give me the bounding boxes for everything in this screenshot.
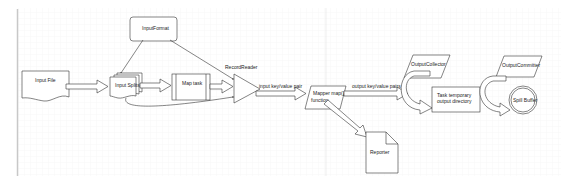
node-map-task[interactable]: Map task (172, 74, 210, 100)
node-output-committer[interactable]: OutputCommitter (496, 56, 542, 77)
output-collector-label: OutputCollector (411, 61, 446, 67)
mapper-label-line1: Mapper map() (313, 90, 345, 96)
record-reader-label: RecordReader (225, 64, 258, 70)
spill-buffer-label: Spill Buffer (513, 97, 537, 103)
reporter-label: Reporter (370, 149, 390, 155)
input-file-label: Input File (35, 77, 56, 83)
task-temp-dir-line2: output directory (437, 98, 472, 104)
input-splits-label: Input Splits (115, 82, 140, 88)
diagram-canvas: Input File InputFormat Input Splits (0, 0, 561, 187)
output-committer-label: OutputCommitter (502, 62, 540, 68)
node-spill-buffer[interactable]: Spill Buffer (509, 86, 537, 114)
output-kv-label: output key/value pairs (352, 83, 401, 89)
node-input-format[interactable]: InputFormat (130, 17, 177, 41)
node-input-file[interactable]: Input File (22, 71, 69, 101)
input-kv-label: input key/value pair (259, 83, 302, 89)
node-task-temp-dir[interactable]: Task temporary output directory (432, 87, 480, 112)
input-format-label: InputFormat (142, 25, 170, 31)
map-task-label: Map task (182, 80, 203, 86)
